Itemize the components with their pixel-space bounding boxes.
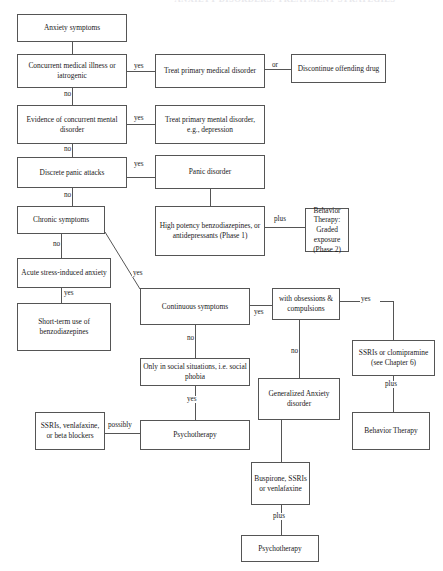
node-acute-stress: Acute stress-induced anxiety (17, 258, 111, 288)
node-generalized-anxiety: Generalized Anxiety disorder (258, 378, 340, 420)
node-psychotherapy-social: Psychotherapy (140, 420, 250, 450)
node-label: Generalized Anxiety disorder (261, 389, 337, 409)
edge-concurrent-to-treat-medical (127, 71, 155, 72)
node-treat-primary-medical: Treat primary medical disorder (155, 54, 265, 88)
node-label: Continuous symptoms (143, 302, 247, 312)
node-label: Chronic symptoms (20, 215, 102, 225)
edge-label-no-medical: no (63, 91, 72, 98)
node-concurrent-medical: Concurrent medical illness or iatrogenic (17, 54, 127, 88)
node-label: Only in social situations, i.e. social p… (143, 362, 247, 382)
node-label: Discontinue offending drug (294, 64, 383, 74)
edge-label-yes-panic: yes (133, 161, 145, 168)
edge-label-or-medical: or (271, 62, 279, 69)
node-discrete-panic: Discrete panic attacks (17, 157, 127, 188)
edge-label-possibly-social: possibly (107, 422, 133, 429)
edge-continuous-to-obsessions (250, 305, 272, 306)
node-label: Buspirone, SSRIs or venlafaxine (254, 474, 307, 494)
edge-label-yes-medical: yes (133, 63, 145, 70)
edge-generalized-to-buspirone (281, 420, 282, 462)
node-label: Treat primary mental disorder, e.g., dep… (158, 115, 262, 135)
node-ssri-clomipramine: SSRIs or clomipramine (see Chapter 6) (352, 340, 435, 376)
edge-label-no-mental: no (63, 146, 72, 153)
node-label: High potency benzodiazepines, or antidep… (158, 221, 262, 241)
node-social-situations: Only in social situations, i.e. social p… (140, 358, 250, 386)
node-high-potency-benzodiazepines: High potency benzodiazepines, or antidep… (155, 206, 265, 256)
node-label: Psychotherapy (244, 544, 316, 554)
page-title: ANXIETY DISORDERS: TREATMENT STRATEGIES (130, 0, 440, 4)
node-label: Evidence of concurrent mental disorder (20, 115, 124, 135)
node-ssri-venlafaxine-beta: SSRIs, venlafaxine, or beta blockers (35, 412, 105, 450)
node-behavior-therapy: Behavior Therapy (352, 412, 430, 450)
edge-label-no-panic: no (63, 192, 72, 199)
edge-label-yes-diagonal: yes (132, 270, 144, 277)
edge-ssri-beta-to-psychotherapy (105, 433, 140, 434)
node-behavior-therapy-graded: Behavior Therapy: Graded exposure (Phase… (305, 208, 349, 252)
node-label: Discrete panic attacks (20, 168, 124, 178)
node-label: SSRIs or clomipramine (see Chapter 6) (355, 348, 432, 368)
node-label: Behavior Therapy (355, 426, 427, 436)
node-buspirone: Buspirone, SSRIs or venlafaxine (251, 462, 310, 505)
node-label: with obsessions & compulsions (275, 294, 337, 314)
node-panic-disorder: Panic disorder (155, 155, 265, 189)
edge-obsessions-yes-horizontal2 (380, 301, 394, 302)
edge-anxiety-to-concurrent (72, 42, 73, 54)
node-label: Panic disorder (158, 167, 262, 177)
flowchart-canvas: ANXIETY DISORDERS: TREATMENT STRATEGIES … (0, 0, 443, 571)
edge-label-plus-gad: plus (272, 513, 286, 520)
edge-label-yes-continuous: yes (253, 309, 265, 316)
node-label: SSRIs, venlafaxine, or beta blockers (38, 421, 102, 441)
edge-label-plus-phase: plus (273, 216, 287, 223)
node-discontinue-drug: Discontinue offending drug (291, 54, 386, 83)
node-treat-primary-mental: Treat primary mental disorder, e.g., dep… (155, 105, 265, 144)
edge-obsessions-yes-horizontal (340, 301, 360, 302)
node-label: Anxiety symptoms (20, 23, 124, 33)
edge-label-yes-acute: yes (63, 290, 75, 297)
node-short-term-benzodiazepines: Short-term use of benzodiazepines (17, 303, 111, 351)
edge-acute-stress-to-short-term (61, 288, 62, 303)
edge-label-plus-ocd: plus (384, 381, 398, 388)
node-label: Short-term use of benzodiazepines (20, 317, 108, 337)
edge-discrete-panic-to-panic-disorder (127, 177, 155, 178)
node-continuous-symptoms: Continuous symptoms (140, 288, 250, 325)
node-with-obsessions: with obsessions & compulsions (272, 288, 340, 320)
edge-label-yes-mental: yes (133, 115, 145, 122)
node-label: Concurrent medical illness or iatrogenic (20, 61, 124, 81)
node-label: Psychotherapy (143, 430, 247, 440)
edge-high-potency-to-behavior-graded (265, 227, 305, 228)
edge-obsessions-yes-to-ssri (393, 301, 394, 340)
node-anxiety-symptoms: Anxiety symptoms (17, 14, 127, 42)
node-label: Acute stress-induced anxiety (20, 268, 108, 278)
edge-label-no-continuous: no (186, 335, 195, 342)
node-chronic-symptoms: Chronic symptoms (17, 206, 105, 234)
edge-label-yes-obsessions: yes (360, 296, 372, 303)
edge-label-no-obsessions: no (290, 348, 299, 355)
edge-label-yes-social: yes (186, 396, 198, 403)
edge-panic-disorder-to-high-potency (210, 189, 211, 206)
edge-evidence-to-treat-mental (127, 124, 155, 125)
node-psychotherapy-gad: Psychotherapy (241, 535, 319, 562)
node-label: Treat primary medical disorder (158, 66, 262, 76)
node-evidence-mental: Evidence of concurrent mental disorder (17, 105, 127, 144)
node-label: Behavior Therapy: Graded exposure (Phase… (308, 206, 346, 255)
edge-label-no-chronic: no (52, 241, 61, 248)
